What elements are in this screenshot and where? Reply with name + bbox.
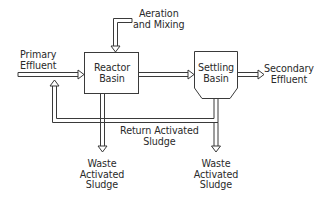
primary-effluent-arrow (18, 70, 84, 79)
secondary-effluent-arrow (238, 70, 264, 79)
waste-sludge-arrow-2 (212, 123, 221, 153)
settling-basin-label: Settling Basin (194, 63, 238, 84)
aeration-label: Aeration and Mixing (133, 9, 185, 30)
waste-sludge-label-1: Waste Activated Sludge (76, 159, 128, 191)
secondary-effluent-label: Secondary Effluent (264, 64, 314, 85)
primary-effluent-label: Primary Effluent (20, 50, 57, 71)
return-sludge-label: Return Activated Sludge (120, 126, 199, 147)
process-flow-diagram (0, 0, 334, 200)
reactor-basin-label: Reactor Basin (84, 63, 140, 84)
reactor-to-settling-arrow (139, 70, 194, 79)
waste-sludge-label-2: Waste Activated Sludge (190, 159, 242, 191)
aeration-arrow (111, 19, 132, 53)
